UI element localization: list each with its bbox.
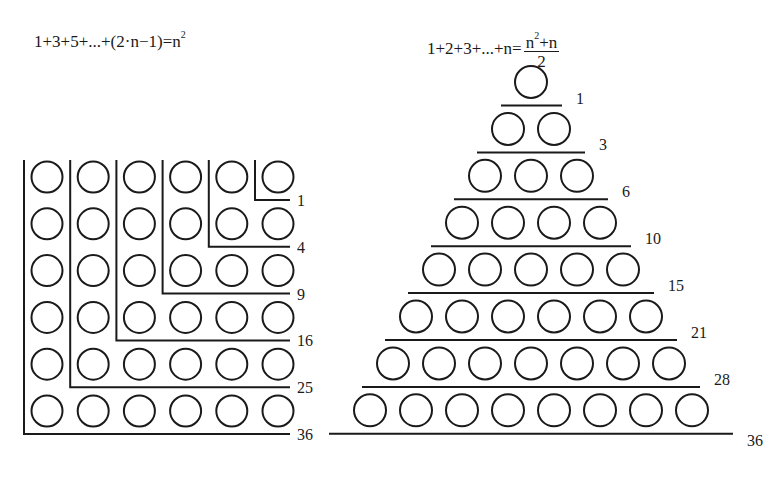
dot: [630, 394, 662, 426]
dot: [561, 347, 593, 379]
dot: [354, 394, 386, 426]
dot: [78, 396, 109, 427]
dot: [515, 254, 547, 286]
dot: [32, 302, 63, 333]
l-shape-divider: [255, 160, 290, 200]
square-count-label: 25: [297, 379, 313, 396]
square-count-label: 36: [297, 426, 313, 443]
dot: [263, 255, 294, 286]
dot: [584, 394, 616, 426]
dot: [170, 396, 201, 427]
dot: [446, 207, 478, 239]
dot: [538, 113, 570, 145]
dot: [492, 394, 524, 426]
dot: [538, 394, 570, 426]
dot: [263, 208, 294, 239]
dot: [446, 301, 478, 333]
diagram-canvas: 149162536 1361015212836: [0, 0, 778, 477]
dot: [469, 254, 501, 286]
dot: [377, 347, 409, 379]
dot: [469, 160, 501, 192]
dot: [515, 160, 547, 192]
dot: [124, 255, 155, 286]
dot: [124, 208, 155, 239]
dot: [538, 301, 570, 333]
dot: [216, 396, 247, 427]
dot: [584, 207, 616, 239]
pyramid-count-label: 21: [691, 324, 707, 341]
dot: [400, 301, 432, 333]
dot: [446, 394, 478, 426]
dot: [630, 301, 662, 333]
dot: [216, 162, 247, 193]
dot: [561, 254, 593, 286]
dot: [423, 347, 455, 379]
dot: [216, 349, 247, 380]
dot: [124, 396, 155, 427]
dot: [607, 254, 639, 286]
dot: [607, 347, 639, 379]
dot: [492, 207, 524, 239]
dot: [492, 301, 524, 333]
dot: [170, 302, 201, 333]
dot: [538, 207, 570, 239]
dot: [32, 162, 63, 193]
dot: [263, 162, 294, 193]
pyramid-count-label: 36: [747, 432, 763, 449]
square-count-label: 4: [297, 239, 305, 256]
dot: [124, 162, 155, 193]
square-count-label: 16: [297, 332, 313, 349]
dot: [469, 347, 501, 379]
dot: [170, 208, 201, 239]
dot: [78, 255, 109, 286]
l-shape-divider: [24, 160, 290, 434]
dot: [423, 254, 455, 286]
dot: [170, 162, 201, 193]
dot: [400, 394, 432, 426]
triangular-pyramid-diagram: 1361015212836: [329, 66, 763, 449]
dot: [653, 347, 685, 379]
dot: [170, 349, 201, 380]
dot: [584, 301, 616, 333]
dot: [561, 160, 593, 192]
dot: [492, 113, 524, 145]
dot: [32, 208, 63, 239]
odd-sum-square-diagram: 149162536: [24, 160, 313, 443]
pyramid-count-label: 15: [668, 277, 684, 294]
dot: [78, 302, 109, 333]
dot: [32, 255, 63, 286]
pyramid-count-label: 6: [622, 183, 630, 200]
dot: [676, 394, 708, 426]
dot: [78, 349, 109, 380]
dot: [78, 208, 109, 239]
square-count-label: 9: [297, 286, 305, 303]
dot: [216, 255, 247, 286]
dot: [216, 208, 247, 239]
dot: [515, 347, 547, 379]
dot: [216, 302, 247, 333]
pyramid-count-label: 10: [645, 230, 661, 247]
pyramid-count-label: 3: [599, 136, 607, 153]
dot: [78, 162, 109, 193]
dot: [124, 302, 155, 333]
dot: [124, 349, 155, 380]
dot: [515, 66, 547, 98]
dot: [32, 396, 63, 427]
dot: [32, 349, 63, 380]
dot: [263, 302, 294, 333]
dot: [263, 349, 294, 380]
pyramid-count-label: 1: [576, 90, 584, 107]
pyramid-count-label: 28: [714, 371, 730, 388]
dot: [263, 396, 294, 427]
square-count-label: 1: [297, 192, 305, 209]
dot: [170, 255, 201, 286]
l-shape-divider: [163, 160, 290, 294]
